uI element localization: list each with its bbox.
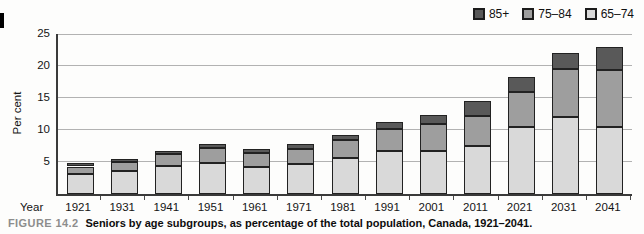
x-axis-tick <box>365 196 366 200</box>
bar-segment-85+ <box>508 77 535 92</box>
x-axis-tick <box>586 196 587 200</box>
bar-segment-85+ <box>67 163 94 166</box>
bar-segment-85+ <box>464 101 491 116</box>
bar-segment-65-74 <box>155 166 182 194</box>
plot-area <box>56 34 632 196</box>
bar-segment-75-84 <box>420 124 447 151</box>
bar-segment-65-74 <box>376 151 403 194</box>
x-axis-title: Year <box>20 201 43 213</box>
bar-segment-85+ <box>596 47 623 70</box>
x-axis-tick <box>542 196 543 200</box>
figure-caption: FIGURE 14.2Seniors by age subgroups, as … <box>8 217 532 229</box>
bar-segment-75-84 <box>199 148 226 163</box>
bar-segment-75-84 <box>111 162 138 171</box>
bar-segment-75-84 <box>243 153 270 167</box>
bar-segment-75-84 <box>155 154 182 166</box>
x-tick-label: 1951 <box>188 201 232 213</box>
bar-segment-75-84 <box>596 70 623 128</box>
x-tick-label: 1941 <box>144 201 188 213</box>
legend: 85+75–8465–74 <box>473 7 634 21</box>
legend-label: 75–84 <box>538 7 571 21</box>
y-tick-label: 5 <box>26 155 50 167</box>
scan-artifact <box>0 13 4 28</box>
x-axis-tick <box>321 196 322 200</box>
bar-segment-85+ <box>420 115 447 125</box>
bar-segment-85+ <box>552 53 579 69</box>
bar-segment-75-84 <box>287 149 314 164</box>
bar-segment-85+ <box>155 151 182 154</box>
y-tick-label: 25 <box>26 27 50 39</box>
y-axis-title: Per cent <box>11 92 23 135</box>
x-tick-label: 1981 <box>321 201 365 213</box>
x-tick-label: 2031 <box>542 201 586 213</box>
bar-segment-75-84 <box>508 92 535 127</box>
bar-segment-85+ <box>243 149 270 153</box>
x-axis-tick <box>409 196 410 200</box>
x-tick-label: 1931 <box>100 201 144 213</box>
bar-segment-65-74 <box>464 146 491 194</box>
bar-segment-65-74 <box>67 174 94 194</box>
x-axis-tick <box>453 196 454 200</box>
bar-segment-75-84 <box>67 167 94 175</box>
figure-14-2: 85+75–8465–74 Per cent Year FIGURE 14.2S… <box>0 0 644 234</box>
bar-segment-65-74 <box>111 171 138 194</box>
bar-segment-75-84 <box>332 140 359 158</box>
bar-segment-65-74 <box>596 127 623 194</box>
x-axis-tick <box>144 196 145 200</box>
x-tick-label: 2001 <box>409 201 453 213</box>
gridline <box>58 65 632 66</box>
legend-item: 75–84 <box>522 7 571 21</box>
x-tick-label: 2011 <box>453 201 497 213</box>
bar-segment-65-74 <box>199 163 226 194</box>
x-tick-label: 1991 <box>365 201 409 213</box>
x-tick-label: 1971 <box>277 201 321 213</box>
x-axis-tick <box>277 196 278 200</box>
bar-segment-85+ <box>199 144 226 148</box>
y-tick-label: 20 <box>26 59 50 71</box>
legend-item: 65–74 <box>585 7 634 21</box>
bar-segment-65-74 <box>552 117 579 194</box>
bar-segment-85+ <box>287 144 314 148</box>
bar-segment-85+ <box>376 122 403 129</box>
bar-segment-75-84 <box>376 129 403 151</box>
figure-number: FIGURE 14.2 <box>8 217 78 229</box>
x-tick-label: 1921 <box>56 201 100 213</box>
bar-segment-75-84 <box>464 116 491 146</box>
x-axis-tick <box>100 196 101 200</box>
x-tick-label: 2041 <box>586 201 630 213</box>
legend-swatch-icon <box>473 8 485 20</box>
y-tick-label: 15 <box>26 91 50 103</box>
x-axis-tick <box>498 196 499 200</box>
x-axis-tick <box>233 196 234 200</box>
legend-item: 85+ <box>473 7 509 21</box>
gridline <box>58 34 632 35</box>
figure-caption-text: Seniors by age subgroups, as percentage … <box>85 217 532 229</box>
bar-segment-65-74 <box>332 158 359 194</box>
x-tick-label: 1961 <box>233 201 277 213</box>
x-tick-label: 2021 <box>498 201 542 213</box>
legend-swatch-icon <box>585 8 597 20</box>
bar-segment-65-74 <box>243 167 270 194</box>
legend-label: 85+ <box>489 7 509 21</box>
legend-label: 65–74 <box>601 7 634 21</box>
y-tick-label: 10 <box>26 123 50 135</box>
bar-segment-65-74 <box>287 164 314 194</box>
bar-segment-65-74 <box>508 127 535 194</box>
bar-segment-85+ <box>111 159 138 162</box>
bar-segment-65-74 <box>420 151 447 194</box>
x-axis-tick <box>630 196 631 200</box>
bar-segment-85+ <box>332 135 359 140</box>
x-axis-tick <box>188 196 189 200</box>
gridline <box>58 97 632 98</box>
legend-swatch-icon <box>522 8 534 20</box>
gridline <box>58 129 632 130</box>
bar-segment-75-84 <box>552 69 579 118</box>
